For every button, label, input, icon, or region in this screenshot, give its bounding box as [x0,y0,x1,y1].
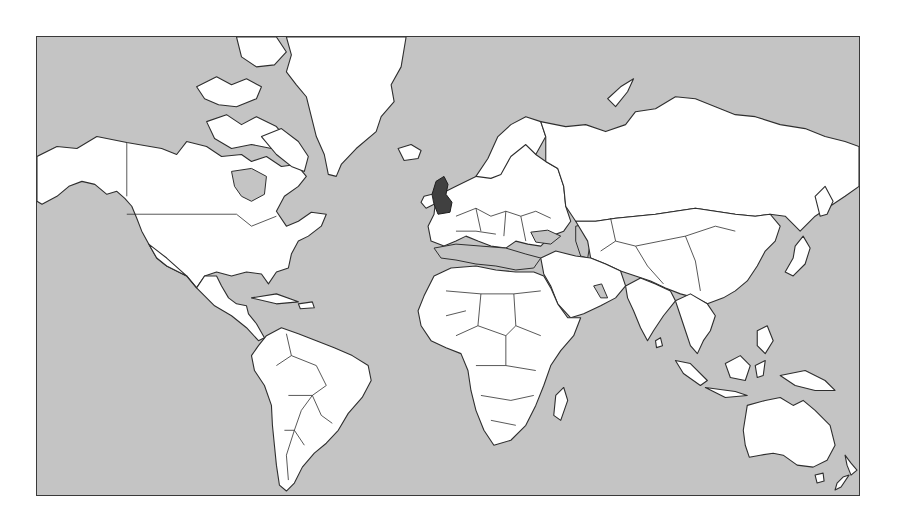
region-sri-lanka[interactable] [655,338,662,348]
region-south-america[interactable] [251,328,371,491]
region-madagascar[interactable] [554,387,568,420]
region-new-zealand-south[interactable] [835,475,849,490]
region-cuba[interactable] [251,294,298,304]
region-philippines[interactable] [757,326,773,354]
region-australia[interactable] [743,397,835,467]
region-canadian-arctic-islands[interactable] [197,77,262,107]
region-novaya-zemlya[interactable] [608,79,634,107]
mediterranean-sea [434,244,541,270]
region-new-zealand[interactable] [845,455,857,475]
region-ellesmere-island[interactable] [237,37,287,67]
region-sumatra[interactable] [675,361,707,386]
region-new-guinea[interactable] [780,371,835,391]
region-iceland[interactable] [398,145,421,161]
world-map-frame: Mercator [36,36,860,496]
region-japan[interactable] [785,236,810,276]
region-java[interactable] [705,387,747,397]
region-tasmania[interactable] [815,473,824,483]
region-sulawesi[interactable] [755,361,765,378]
region-ireland[interactable] [421,194,434,208]
world-map [37,37,859,495]
region-borneo[interactable] [725,356,750,381]
region-hispaniola[interactable] [298,302,314,309]
